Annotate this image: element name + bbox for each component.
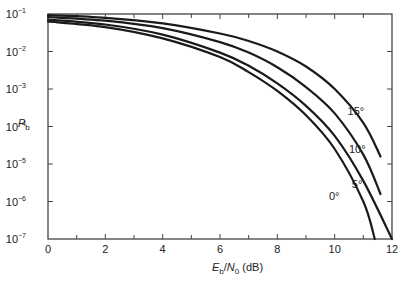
x-axis-ticks: 024681012: [45, 14, 398, 255]
x-tick-label: 2: [102, 243, 108, 255]
y-tick-label: 10−3: [6, 82, 26, 95]
x-tick-label: 0: [45, 243, 51, 255]
x-tick-label: 4: [160, 243, 166, 255]
y-tick-exponent: −5: [18, 157, 26, 164]
y-tick-exponent: −1: [18, 7, 26, 14]
x-tick-label: 10: [329, 243, 341, 255]
y-axis-ticks: 10−110−210−310−410−510−610−7: [6, 7, 392, 245]
y-tick-label: 10−6: [6, 195, 26, 208]
y-axis-title: Pb: [18, 117, 30, 132]
y-tick-exponent: −2: [18, 45, 26, 52]
y-tick-exponent: −3: [18, 82, 26, 89]
curves: [48, 15, 392, 239]
ber-chart: 024681012 10−110−210−310−410−510−610−7 1…: [0, 0, 403, 281]
y-tick-label: 10−5: [6, 157, 26, 170]
curve-5deg: [48, 20, 392, 239]
curve-label: 5°: [352, 178, 363, 190]
y-tick-label: 10−7: [6, 232, 26, 245]
plot-border: [48, 14, 392, 239]
y-tick-label: 10−2: [6, 45, 26, 58]
curve-label: 10°: [349, 143, 366, 155]
curve-10deg: [48, 17, 381, 194]
x-tick-label: 6: [217, 243, 223, 255]
curve-0deg: [48, 22, 375, 240]
plot-frame: [48, 14, 392, 239]
x-tick-label: 8: [274, 243, 280, 255]
y-tick-exponent: −7: [18, 232, 26, 239]
curve-label: 15°: [348, 105, 365, 117]
y-tick-label: 10−1: [6, 7, 26, 20]
y-tick-exponent: −6: [18, 195, 26, 202]
x-tick-label: 12: [386, 243, 398, 255]
curve-15deg: [48, 15, 381, 156]
curve-label: 0°: [329, 190, 340, 202]
x-axis-title: Eb/N0 (dB): [212, 261, 263, 276]
